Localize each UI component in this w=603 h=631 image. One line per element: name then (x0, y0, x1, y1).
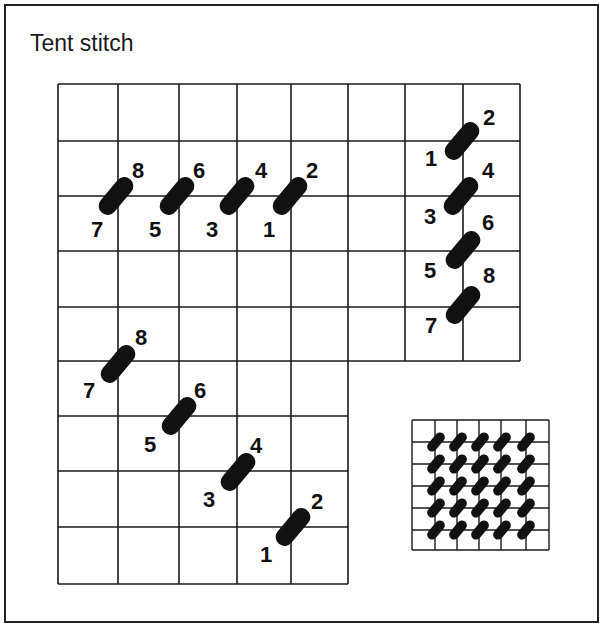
horizontal-stitch-row: 8 6 4 2 7 5 3 1 (91, 158, 318, 242)
step-label: 3 (203, 487, 215, 512)
step-label: 3 (206, 217, 218, 242)
step-label: 6 (193, 158, 205, 183)
step-label: 5 (144, 432, 156, 457)
step-label: 6 (194, 378, 206, 403)
step-label: 5 (424, 258, 436, 283)
step-label: 8 (132, 158, 144, 183)
step-label: 4 (250, 433, 263, 458)
step-label: 1 (425, 146, 437, 171)
step-label: 7 (83, 378, 95, 403)
step-label: 2 (306, 158, 318, 183)
step-label: 2 (311, 489, 323, 514)
vertical-stitch-column: 1 3 5 7 2 4 6 8 (424, 105, 495, 338)
swatch-stitches (425, 430, 537, 541)
stitch-diagram: 8 6 4 2 7 5 3 1 1 3 5 7 2 4 6 8 8 6 4 2 … (0, 0, 603, 631)
step-label: 8 (483, 263, 495, 288)
step-label: 5 (149, 217, 161, 242)
sample-swatch (412, 420, 549, 550)
step-label: 6 (482, 210, 494, 235)
step-label: 1 (260, 542, 272, 567)
step-label: 1 (263, 217, 275, 242)
step-label: 8 (135, 325, 147, 350)
step-label: 4 (255, 158, 268, 183)
step-label: 2 (483, 105, 495, 130)
step-label: 3 (424, 204, 436, 229)
step-label: 7 (425, 313, 437, 338)
step-label: 4 (482, 158, 495, 183)
step-label: 7 (91, 217, 103, 242)
